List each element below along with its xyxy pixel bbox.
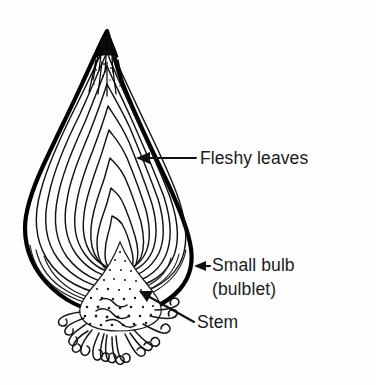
bulb-diagram-figure: Fleshy leaves Small bulb (bulblet) Stem [0, 0, 376, 385]
root-11 [72, 331, 88, 352]
bulb-illustration: Fleshy leaves Small bulb (bulblet) Stem [0, 0, 376, 385]
labels-group: Fleshy leaves Small bulb (bulblet) Stem [197, 148, 308, 332]
label-small-bulb-line2: (bulblet) [212, 279, 276, 299]
label-fleshy-leaves: Fleshy leaves [200, 148, 308, 168]
root-13 [59, 312, 80, 326]
label-small-bulb-line1: Small bulb [212, 255, 295, 275]
label-stem: Stem [197, 312, 238, 332]
arrowhead-small-bulb [194, 261, 206, 271]
root-15 [100, 334, 109, 361]
